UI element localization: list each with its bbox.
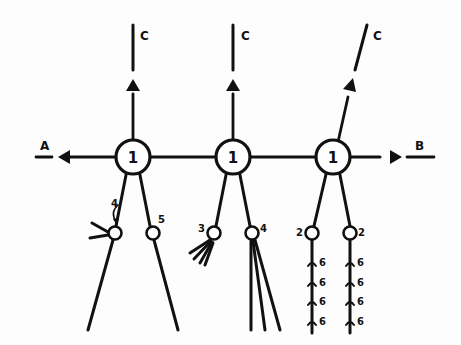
node-label-2: 1 [228, 151, 238, 166]
marker-6: 6 [319, 297, 326, 307]
marker-6: 6 [319, 258, 326, 268]
sub-label-2a: 2 [296, 228, 303, 238]
marker-6: 6 [357, 258, 364, 268]
branches-node-2 [190, 170, 280, 330]
output-label-c1: C [140, 30, 149, 42]
tick-marks [308, 263, 354, 325]
output-label-a: A [40, 140, 49, 152]
sub-node-4b [246, 227, 259, 240]
marker-6: 6 [319, 317, 326, 327]
sub-label-3: 3 [198, 224, 205, 234]
output-label-c2: C [241, 30, 250, 42]
sub-label-4b: 4 [260, 224, 267, 234]
node-label-1: 1 [128, 151, 138, 166]
sub-node-2b [344, 227, 357, 240]
output-c-2 [226, 25, 240, 142]
sub-node-5 [147, 227, 160, 240]
marker-6: 6 [357, 317, 364, 327]
node-label-3: 1 [328, 151, 338, 166]
branches-node-3 [308, 170, 354, 333]
marker-6: 6 [319, 278, 326, 288]
marker-6: 6 [357, 278, 364, 288]
branches-node-1 [88, 170, 178, 330]
diagram-canvas: A B C C C 1 1 1 4 5 3 4 2 2 6 6 6 6 6 6 … [0, 0, 461, 345]
sub-label-4a: 4 [111, 199, 118, 209]
output-label-b: B [415, 140, 424, 152]
sub-label-2b: 2 [358, 228, 365, 238]
output-label-c3: C [373, 30, 382, 42]
sub-label-5: 5 [158, 215, 165, 225]
sub-node-2a [306, 227, 319, 240]
diagram-lines [0, 0, 461, 345]
output-c-1 [126, 25, 140, 142]
sub-node-4a [109, 227, 122, 240]
arrow-right-icon [390, 150, 434, 164]
output-c-3 [338, 25, 367, 142]
marker-6: 6 [357, 297, 364, 307]
sub-node-3 [208, 227, 221, 240]
